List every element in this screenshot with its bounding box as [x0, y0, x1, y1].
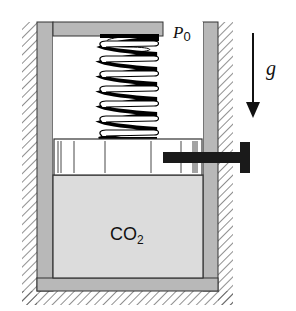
piston-diagram: P0 g CO2 [0, 0, 296, 311]
lid [53, 22, 163, 36]
gravity-arrow-icon [246, 33, 260, 118]
gravity-label: g [266, 57, 276, 80]
